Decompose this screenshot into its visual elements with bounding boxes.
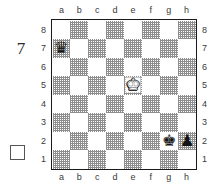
file-label-top-b: b [70, 5, 88, 16]
rank-label-right-6: 6 [199, 58, 210, 77]
file-label-bottom-d: d [106, 172, 124, 183]
file-label-top-c: c [88, 5, 106, 16]
square-b8[interactable] [70, 21, 88, 40]
square-a3[interactable] [53, 113, 71, 132]
square-g8[interactable] [160, 21, 178, 40]
square-h2[interactable]: ♟ [178, 132, 196, 151]
square-g2[interactable]: ♚ [160, 132, 178, 151]
square-g7[interactable] [160, 39, 178, 58]
file-labels-bottom: abcdefgh [53, 172, 196, 183]
rank-label-right-7: 7 [199, 39, 210, 58]
square-f5[interactable] [142, 76, 160, 95]
square-e7[interactable] [124, 39, 142, 58]
square-d2[interactable] [106, 132, 124, 151]
square-c1[interactable] [88, 150, 106, 169]
file-label-top-a: a [53, 5, 71, 16]
file-labels-top: abcdefgh [53, 5, 196, 16]
square-g4[interactable] [160, 95, 178, 114]
square-f8[interactable] [142, 21, 160, 40]
square-e4[interactable] [124, 95, 142, 114]
square-h7[interactable] [178, 39, 196, 58]
rank-labels-left: 87654321 [38, 21, 49, 169]
square-b1[interactable] [70, 150, 88, 169]
square-g1[interactable] [160, 150, 178, 169]
square-a6[interactable] [53, 58, 71, 77]
square-b2[interactable] [70, 132, 88, 151]
rank-label-left-3: 3 [38, 113, 49, 132]
file-label-top-h: h [178, 5, 196, 16]
square-f2[interactable] [142, 132, 160, 151]
square-h1[interactable] [178, 150, 196, 169]
square-f6[interactable] [142, 58, 160, 77]
square-f7[interactable] [142, 39, 160, 58]
file-label-bottom-a: a [53, 172, 71, 183]
square-c8[interactable] [88, 21, 106, 40]
square-c2[interactable] [88, 132, 106, 151]
chess-diagram: 7 abcdefgh 87654321 ♛♚♚♟ 87654321 abcdef… [0, 0, 217, 190]
square-f4[interactable] [142, 95, 160, 114]
rank-label-right-3: 3 [199, 113, 210, 132]
square-c4[interactable] [88, 95, 106, 114]
square-h3[interactable] [178, 113, 196, 132]
square-g6[interactable] [160, 58, 178, 77]
square-d6[interactable] [106, 58, 124, 77]
square-b5[interactable] [70, 76, 88, 95]
file-label-bottom-c: c [88, 172, 106, 183]
rank-label-left-7: 7 [38, 39, 49, 58]
rank-label-right-5: 5 [199, 76, 210, 95]
square-e6[interactable] [124, 58, 142, 77]
rank-label-right-1: 1 [199, 150, 210, 169]
square-f1[interactable] [142, 150, 160, 169]
rank-label-left-5: 5 [38, 76, 49, 95]
file-label-bottom-h: h [178, 172, 196, 183]
square-b6[interactable] [70, 58, 88, 77]
square-e3[interactable] [124, 113, 142, 132]
square-e8[interactable] [124, 21, 142, 40]
square-b7[interactable] [70, 39, 88, 58]
square-f3[interactable] [142, 113, 160, 132]
square-e5[interactable]: ♚ [124, 76, 142, 95]
file-label-bottom-g: g [160, 172, 178, 183]
square-c7[interactable] [88, 39, 106, 58]
square-h6[interactable] [178, 58, 196, 77]
square-a8[interactable] [53, 21, 71, 40]
square-h8[interactable] [178, 21, 196, 40]
square-b4[interactable] [70, 95, 88, 114]
square-h5[interactable] [178, 76, 196, 95]
square-d8[interactable] [106, 21, 124, 40]
square-e1[interactable] [124, 150, 142, 169]
square-a7[interactable]: ♛ [53, 39, 71, 58]
rank-label-right-4: 4 [199, 95, 210, 114]
move-number-label: 7 [8, 38, 34, 60]
square-a4[interactable] [53, 95, 71, 114]
square-d1[interactable] [106, 150, 124, 169]
black-king-icon[interactable]: ♚ [162, 133, 176, 149]
rank-labels-right: 87654321 [199, 21, 210, 169]
side-to-move-indicator [10, 145, 25, 160]
square-a2[interactable] [53, 132, 71, 151]
square-a5[interactable] [53, 76, 71, 95]
square-c6[interactable] [88, 58, 106, 77]
black-pawn-icon[interactable]: ♟ [180, 133, 194, 149]
white-king-icon[interactable]: ♚ [126, 77, 140, 93]
file-label-top-f: f [142, 5, 160, 16]
square-d7[interactable] [106, 39, 124, 58]
square-h4[interactable] [178, 95, 196, 114]
square-b3[interactable] [70, 113, 88, 132]
square-d5[interactable] [106, 76, 124, 95]
square-c3[interactable] [88, 113, 106, 132]
rank-label-left-8: 8 [38, 21, 49, 40]
square-d4[interactable] [106, 95, 124, 114]
rank-label-right-8: 8 [199, 21, 210, 40]
rank-label-right-2: 2 [199, 132, 210, 151]
file-label-bottom-b: b [70, 172, 88, 183]
square-c5[interactable] [88, 76, 106, 95]
square-g5[interactable] [160, 76, 178, 95]
square-e2[interactable] [124, 132, 142, 151]
square-g3[interactable] [160, 113, 178, 132]
square-a1[interactable] [53, 150, 71, 169]
square-d3[interactable] [106, 113, 124, 132]
rank-label-left-1: 1 [38, 150, 49, 169]
black-queen-icon[interactable]: ♛ [54, 40, 68, 56]
file-label-bottom-f: f [142, 172, 160, 183]
